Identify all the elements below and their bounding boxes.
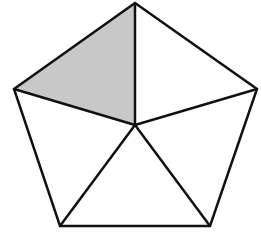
pentagon-diagram [0,0,261,234]
radius-right [135,89,257,125]
radius-bottom-left [60,125,135,226]
radius-bottom-right [135,125,210,226]
